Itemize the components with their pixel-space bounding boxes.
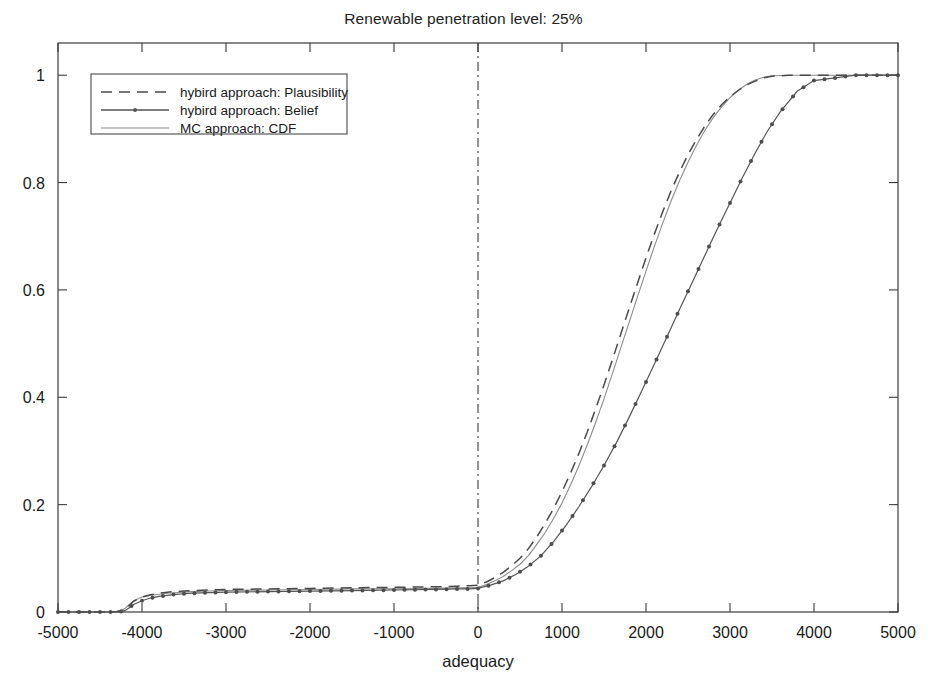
data-point-marker <box>802 85 806 89</box>
data-point-marker <box>602 463 606 467</box>
data-point-marker <box>833 76 837 80</box>
data-point-marker <box>487 584 491 588</box>
data-point-marker <box>413 588 417 592</box>
data-point-marker <box>665 335 669 339</box>
data-point-marker <box>340 589 344 593</box>
data-point-marker <box>403 588 407 592</box>
y-tick-label: 0.8 <box>23 175 45 192</box>
data-point-marker <box>434 587 438 591</box>
data-point-marker <box>823 77 827 81</box>
data-point-marker <box>613 444 617 448</box>
data-point-marker <box>728 201 732 205</box>
y-tick-label: 1 <box>36 67 45 84</box>
data-point-marker <box>130 604 134 608</box>
data-point-marker <box>623 424 627 428</box>
data-point-marker <box>119 609 123 613</box>
data-point-marker <box>592 481 596 485</box>
data-point-marker <box>466 587 470 591</box>
data-point-marker <box>319 589 323 593</box>
data-point-marker <box>77 610 81 614</box>
x-tick-label: -3000 <box>206 624 247 641</box>
data-point-marker <box>529 563 533 567</box>
data-point-marker <box>245 590 249 594</box>
data-point-marker <box>497 580 501 584</box>
data-point-marker <box>634 402 638 406</box>
x-tick-label: 5000 <box>880 624 916 641</box>
data-point-marker <box>287 589 291 593</box>
data-point-marker <box>424 588 428 592</box>
data-point-marker <box>298 589 302 593</box>
chart-legend: hybird approach: Plausibilityhybird appr… <box>91 74 348 136</box>
data-point-marker <box>781 107 785 111</box>
data-point-marker <box>844 75 848 79</box>
y-tick-label: 0.6 <box>23 282 45 299</box>
y-axis-tick-labels: 00.20.40.60.81 <box>23 67 45 621</box>
data-point-marker <box>214 590 218 594</box>
data-point-marker <box>88 610 92 614</box>
data-point-marker <box>760 140 764 144</box>
data-point-marker <box>224 590 228 594</box>
data-point-marker <box>508 576 512 580</box>
data-point-marker <box>455 587 459 591</box>
data-point-marker <box>193 591 197 595</box>
data-point-marker <box>445 587 449 591</box>
data-point-marker <box>749 159 753 163</box>
data-point-marker <box>896 73 900 77</box>
data-point-marker <box>550 542 554 546</box>
x-axis-tick-labels: -5000-4000-3000-2000-1000010002000300040… <box>38 624 916 641</box>
legend-marker <box>133 108 137 112</box>
plot-canvas: -5000-4000-3000-2000-1000010002000300040… <box>0 0 927 697</box>
legend-label: hybird approach: Plausibility <box>180 85 348 100</box>
x-tick-label: -1000 <box>374 624 415 641</box>
data-point-marker <box>256 590 260 594</box>
data-point-marker <box>161 594 165 598</box>
data-point-marker <box>644 380 648 384</box>
x-tick-label: 0 <box>474 624 483 641</box>
data-point-marker <box>571 514 575 518</box>
data-point-marker <box>277 589 281 593</box>
data-point-marker <box>235 590 239 594</box>
data-point-marker <box>266 590 270 594</box>
data-point-marker <box>676 312 680 316</box>
data-point-marker <box>865 73 869 77</box>
data-point-marker <box>812 79 816 83</box>
y-tick-label: 0.2 <box>23 497 45 514</box>
data-point-marker <box>308 589 312 593</box>
x-axis-title: adequacy <box>442 652 514 670</box>
data-point-marker <box>539 554 543 558</box>
data-point-marker <box>875 73 879 77</box>
data-point-marker <box>98 610 102 614</box>
data-point-marker <box>67 610 71 614</box>
data-point-marker <box>392 588 396 592</box>
data-point-marker <box>56 610 60 614</box>
x-tick-label: 1000 <box>544 624 580 641</box>
x-tick-label: -2000 <box>290 624 331 641</box>
data-point-marker <box>109 610 113 614</box>
data-point-marker <box>854 73 858 77</box>
data-point-marker <box>791 94 795 98</box>
data-point-marker <box>581 498 585 502</box>
legend-label: hybird approach: Belief <box>180 103 318 118</box>
data-point-marker <box>203 591 207 595</box>
data-point-marker <box>382 588 386 592</box>
data-point-marker <box>476 586 480 590</box>
x-tick-label: 2000 <box>628 624 664 641</box>
data-point-marker <box>718 222 722 226</box>
y-tick-label: 0 <box>36 604 45 621</box>
x-tick-label: 3000 <box>712 624 748 641</box>
data-point-marker <box>707 245 711 249</box>
data-point-marker <box>560 529 564 533</box>
x-tick-label: 4000 <box>796 624 832 641</box>
data-point-marker <box>371 588 375 592</box>
data-point-marker <box>770 122 774 126</box>
data-point-marker <box>350 589 354 593</box>
x-tick-label: -4000 <box>122 624 163 641</box>
data-point-marker <box>361 588 365 592</box>
data-point-marker <box>182 592 186 596</box>
data-point-marker <box>172 593 176 597</box>
chart-figure: Renewable penetration level: 25% -5000-4… <box>0 0 927 697</box>
data-point-marker <box>886 73 890 77</box>
data-point-marker <box>697 267 701 271</box>
data-point-marker <box>140 599 144 603</box>
x-tick-label: -5000 <box>38 624 79 641</box>
